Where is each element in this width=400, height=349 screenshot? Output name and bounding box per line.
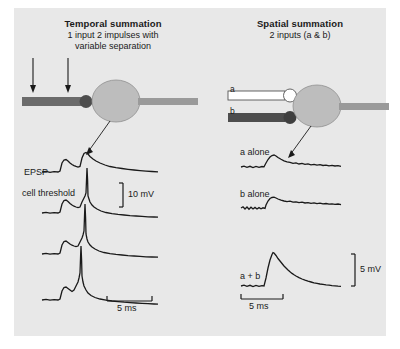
spatial-input-b-label: b — [230, 106, 235, 116]
spatial-diagram-svg — [0, 0, 400, 349]
b-alone-label: b alone — [240, 189, 270, 199]
spatial-time-scale-bar — [241, 294, 283, 299]
spatial-voltage-scale-bar — [351, 254, 355, 286]
spatial-soma — [293, 85, 341, 127]
spatial-trace-a-plus-b — [241, 253, 341, 287]
spatial-input-a-axon — [228, 91, 285, 100]
spatial-recording-pointer-head — [288, 150, 295, 158]
spatial-voltage-scale-label: 5 mV — [360, 264, 381, 274]
spatial-time-scale-label: 5 ms — [249, 301, 269, 311]
spatial-input-b-axon — [228, 113, 285, 122]
figure-container: Temporal summation 1 input 2 impulses wi… — [0, 0, 400, 349]
spatial-input-a-label: a — [230, 84, 235, 94]
spatial-output-axon — [339, 103, 389, 110]
a-plus-b-label: a + b — [240, 271, 260, 281]
spatial-trace-b-alone — [241, 197, 341, 209]
spatial-recording-pointer — [290, 126, 311, 155]
a-alone-label: a alone — [240, 147, 270, 157]
